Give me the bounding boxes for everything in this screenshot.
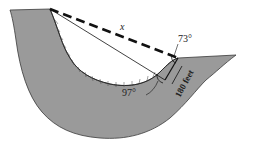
distance-x-line [50,9,178,58]
label-x: x [119,21,125,32]
label-angle-73: 73° [178,33,192,44]
label-angle-97: 97° [122,87,136,98]
diagram-svg: x 73° 97° 180 feet [0,0,256,148]
canyon-diagram: x 73° 97° 180 feet [0,0,256,148]
leader-73 [174,44,178,56]
